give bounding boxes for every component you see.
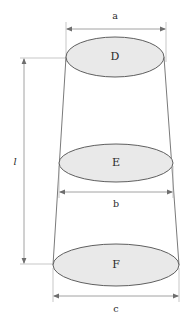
arrow-head-l-top-icon (22, 58, 27, 64)
arrow-head-l-bottom-icon (22, 258, 27, 264)
dimension-label-b: b (113, 198, 119, 209)
arrow-head-b-left-icon (59, 190, 65, 195)
cross-section-label-e: E (112, 156, 120, 169)
arrow-head-a-right-icon (160, 27, 166, 32)
arrow-head-c-right-icon (173, 294, 179, 299)
dimension-label-c: c (113, 303, 118, 314)
arrow-head-a-left-icon (66, 27, 72, 32)
frustum-figure: D E F a b c l (0, 0, 191, 321)
arrow-head-c-left-icon (53, 294, 59, 299)
frustum-diagram: D E F a b c l (0, 0, 191, 321)
cross-section-label-f: F (112, 258, 120, 271)
cross-section-label-d: D (111, 50, 120, 63)
arrow-head-b-right-icon (167, 190, 173, 195)
dimension-label-a: a (112, 10, 118, 21)
dimension-label-l: l (13, 156, 16, 167)
